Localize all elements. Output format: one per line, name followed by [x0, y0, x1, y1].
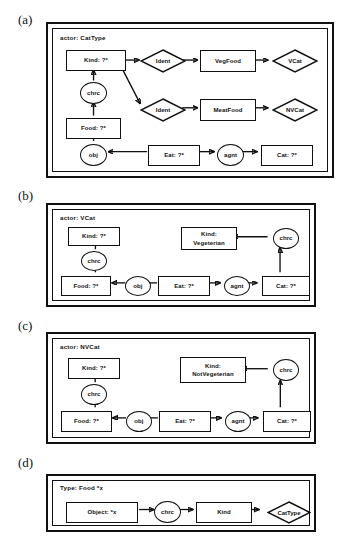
node-cat-a: Cat: ?*: [261, 145, 313, 166]
node-agnt-a: agnt: [217, 144, 244, 166]
node-ident2-a: Ident: [140, 98, 186, 122]
node-ident1-a: Ident: [140, 49, 186, 73]
node-cat-c: Cat: ?*: [263, 411, 311, 432]
node-food-a: Food: ?*: [66, 118, 121, 139]
node-obj-b: obj: [125, 276, 151, 296]
node-kind-b: Kind: ?*: [68, 227, 120, 246]
node-kind-value-b-line2: Vegeterian: [193, 239, 224, 247]
node-kind-d: Kind: [196, 502, 252, 523]
node-nvcat-a: NVCat: [272, 98, 318, 122]
node-eat-c: Eat: ?*: [159, 411, 211, 432]
node-obj-c: obj: [126, 411, 152, 432]
panel-label-b: (b): [18, 188, 33, 204]
node-food-c: Food: ?*: [61, 411, 112, 432]
node-chrc-left-b: chrc: [81, 251, 107, 271]
node-eat-a: Eat: ?*: [148, 145, 200, 166]
node-meatfood-a: MeatFood: [200, 99, 256, 121]
node-agnt-b: agnt: [224, 276, 250, 296]
panel-c: actor: NVCat Kind: ?* chrc Food: ?* obj …: [46, 332, 316, 444]
node-food-b: Food: ?*: [61, 276, 111, 296]
node-kind-value-b-line1: Kind:: [201, 230, 217, 238]
node-agnt-c: agnt: [225, 411, 251, 432]
panel-label-a: (a): [18, 12, 32, 28]
panel-b: actor: VCat Kind: ?* chr: [46, 203, 316, 307]
node-obj-a: obj: [80, 144, 107, 166]
node-vcat-a: VCat: [272, 49, 318, 73]
node-kind-value-c-line2: NotVegeterian: [192, 370, 234, 378]
panel-a: actor: CatType: [46, 22, 334, 178]
panel-label-d: (d): [18, 455, 33, 471]
node-chrc-right-c: chrc: [273, 359, 299, 381]
node-kind-c: Kind: ?*: [68, 358, 120, 379]
node-eat-b: Eat: ?*: [158, 276, 210, 296]
node-chrc-right-b: chrc: [273, 228, 299, 249]
panel-label-c: (c): [18, 318, 32, 334]
node-chrc-d: chrc: [154, 501, 181, 523]
node-cat-b: Cat: ?*: [262, 276, 310, 296]
node-vegfood-a: VegFood: [200, 50, 256, 72]
panel-d: Type: Food *x Object: *x chrc Kind CatTy…: [46, 474, 316, 532]
node-chrc-a: chrc: [80, 82, 107, 104]
node-kind-value-c-line1: Kind:: [205, 362, 221, 370]
node-object-d: Object: *x: [66, 502, 138, 523]
node-cattype-d: CatType: [267, 501, 311, 524]
node-chrc-left-c: chrc: [81, 384, 107, 405]
figure-canvas: (a) actor: CatType: [0, 0, 340, 550]
node-kind-a: Kind: ?*: [66, 50, 126, 71]
node-kind-value-b: Kind: Vegeterian: [181, 227, 237, 250]
node-kind-value-c: Kind: NotVegeterian: [180, 357, 246, 383]
